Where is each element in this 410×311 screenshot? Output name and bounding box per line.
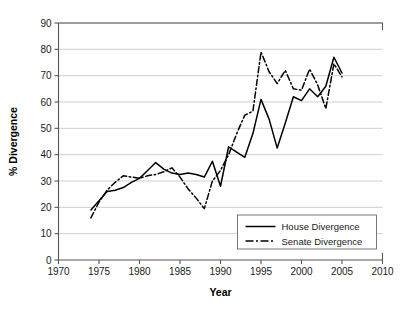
x-tick-label-1985: 1985 [169, 266, 192, 277]
x-tick-label-2000: 2000 [290, 266, 313, 277]
x-tick-label-2005: 2005 [331, 266, 354, 277]
y-tick-label-90: 90 [40, 18, 52, 29]
y-tick-label-50: 50 [40, 123, 52, 134]
x-axis-title: Year [209, 286, 231, 298]
y-tick-label-80: 80 [40, 44, 52, 55]
y-axis-title: % Divergence [7, 107, 19, 176]
x-tick-label-1970: 1970 [47, 266, 70, 277]
y-tick-label-60: 60 [40, 97, 52, 108]
y-tick-label-10: 10 [40, 228, 52, 239]
chart-legend: House DivergenceSenate Divergence [238, 215, 377, 249]
gridlines-group [59, 23, 383, 234]
y-tick-label-20: 20 [40, 202, 52, 213]
series-line-house-divergence [91, 57, 342, 210]
legend-label-0: House Divergence [282, 221, 360, 232]
legend-label-1: Senate Divergence [282, 236, 363, 247]
y-tick-label-70: 70 [40, 70, 52, 81]
x-tick-label-1990: 1990 [209, 266, 232, 277]
x-tick-labels-group: 197019751980198519901995200020052010 [47, 266, 394, 277]
x-tick-label-2010: 2010 [371, 266, 394, 277]
y-tick-label-0: 0 [46, 255, 52, 266]
x-tick-label-1975: 1975 [88, 266, 111, 277]
divergence-line-chart: 0102030405060708090 19701975198019851990… [0, 0, 410, 311]
data-series-group [91, 52, 342, 218]
series-line-senate-divergence [91, 52, 342, 218]
x-tick-label-1980: 1980 [128, 266, 151, 277]
y-tick-label-30: 30 [40, 176, 52, 187]
x-tick-label-1995: 1995 [250, 266, 273, 277]
y-tick-labels-group: 0102030405060708090 [40, 18, 52, 266]
y-tick-label-40: 40 [40, 149, 52, 160]
chart-container: 0102030405060708090 19701975198019851990… [0, 0, 410, 311]
